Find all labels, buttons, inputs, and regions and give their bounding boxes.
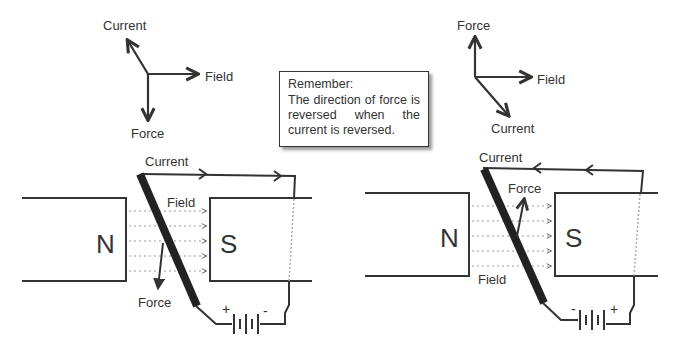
motor-effect-diagram: Current Field Force Force Field Current … xyxy=(0,0,676,354)
conductor-rod xyxy=(140,174,197,306)
remember-note: Remember: The direction of force is reve… xyxy=(279,71,429,147)
current-arrow-icon xyxy=(475,77,508,115)
battery-negative-label: - xyxy=(571,301,576,317)
force-label: Force xyxy=(138,295,171,310)
legend-current-label: Current xyxy=(103,18,147,33)
current-label: Current xyxy=(479,150,523,165)
legend-force-label: Force xyxy=(457,18,490,33)
current-label: Current xyxy=(145,154,189,169)
n-pole-label: N xyxy=(440,223,459,253)
hidden-wire xyxy=(634,194,640,276)
n-pole-label: N xyxy=(96,229,115,259)
field-label: Field xyxy=(167,195,195,210)
field-label: Field xyxy=(478,272,506,287)
battery-icon xyxy=(234,314,258,334)
force-label: Force xyxy=(508,181,541,196)
battery-positive-label: + xyxy=(610,301,618,317)
legend-field-label: Field xyxy=(537,72,565,87)
right-motor: N S Field Current Force xyxy=(365,150,658,330)
s-pole-label: S xyxy=(565,223,582,253)
force-arrow-icon xyxy=(158,243,163,288)
current-arrow-icon xyxy=(128,41,148,74)
legend-current-label: Current xyxy=(491,121,535,136)
top-wire xyxy=(141,174,295,198)
right-legend: Force Field Current xyxy=(457,18,565,136)
battery-negative-label: - xyxy=(263,303,268,319)
note-body: The direction of force is reversed when … xyxy=(288,93,420,138)
left-motor: N S Field Current Force xyxy=(22,154,312,334)
note-title: Remember: xyxy=(288,77,420,92)
top-wire xyxy=(483,168,643,193)
s-pole-label: S xyxy=(220,229,237,259)
legend-force-label: Force xyxy=(131,126,164,141)
battery-icon xyxy=(580,310,604,330)
legend-field-label: Field xyxy=(205,69,233,84)
hidden-wire xyxy=(289,199,294,281)
battery-positive-label: + xyxy=(222,301,230,317)
left-legend: Current Field Force xyxy=(103,18,233,141)
force-arrow-icon xyxy=(517,200,524,236)
current-arrow-icon xyxy=(534,163,541,173)
